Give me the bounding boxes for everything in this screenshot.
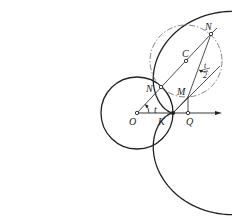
cardioid-diagram: O K Q N C N M t t 2 [0,0,232,223]
line-N-M [188,34,211,97]
label-N-outer: N [204,21,213,32]
point-N-outer [209,32,212,35]
label-Q: Q [186,116,194,127]
label-angle-t: t [154,104,157,115]
label-C: C [182,48,189,59]
point-O [135,111,138,114]
label-K: K [157,116,166,127]
axis-arrow-icon [215,111,222,115]
label-M: M [176,86,186,97]
point-K-fill [171,111,175,115]
point-Q [186,111,189,114]
label-half-t-denominator: 2 [203,71,207,80]
point-N-inner [159,85,162,88]
label-N-inner: N [145,83,154,94]
point-C [184,59,187,62]
label-O: O [129,116,136,127]
radial-line-O-N [137,34,211,113]
